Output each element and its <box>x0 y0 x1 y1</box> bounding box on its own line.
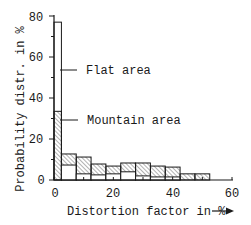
y-axis-title: Probability distr. in % <box>14 25 28 191</box>
histogram-chart: 0 20 40 60 80 0 20 40 60 Distortion fact… <box>0 0 251 225</box>
bars-group <box>54 22 210 180</box>
mountain-area-bar <box>180 174 195 180</box>
x-tick-20: 20 <box>106 187 120 201</box>
flat-area-bar <box>121 172 136 180</box>
mountain-area-bar <box>54 111 61 180</box>
y-tick-80: 80 <box>29 11 43 25</box>
y-tick-0: 0 <box>37 174 44 188</box>
x-axis-title: Distortion factor in % <box>67 205 226 219</box>
y-tick-20: 20 <box>29 133 43 147</box>
x-tick-60: 60 <box>225 187 239 201</box>
y-tick-60: 60 <box>29 51 43 65</box>
flat-area-bar <box>61 165 76 180</box>
y-tick-40: 40 <box>29 92 43 106</box>
flat-area-bar <box>91 175 106 180</box>
x-tick-40: 40 <box>166 187 180 201</box>
mountain-area-label: Mountain area <box>87 114 181 128</box>
x-tick-0: 0 <box>51 187 58 201</box>
flat-area-label: Flat area <box>86 64 151 78</box>
